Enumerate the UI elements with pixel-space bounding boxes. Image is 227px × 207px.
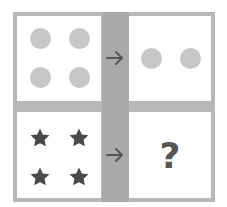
circle-icon	[30, 67, 51, 88]
question-mark: ?	[129, 112, 211, 198]
star-icon	[29, 166, 51, 188]
arrow-right-icon	[105, 50, 125, 66]
circle-icon	[30, 28, 51, 49]
circle-icon	[69, 28, 90, 49]
center-column	[102, 12, 129, 202]
circle-icon	[180, 48, 201, 69]
arrow-right-icon	[105, 147, 125, 163]
circle-icon	[141, 48, 162, 69]
panel-row1-left	[17, 16, 101, 101]
panel-row2-left	[17, 112, 101, 198]
circle-icon	[69, 67, 90, 88]
star-icon	[29, 127, 51, 149]
panel-row2-right: ?	[129, 112, 211, 198]
star-icon	[68, 166, 90, 188]
star-icon	[68, 127, 90, 149]
panel-row1-right	[129, 16, 211, 101]
